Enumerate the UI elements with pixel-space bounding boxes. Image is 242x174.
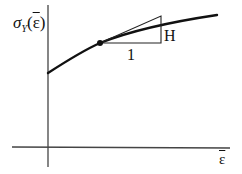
- subscript-y: Y: [21, 23, 27, 34]
- rise-label: H: [164, 28, 176, 44]
- x-axis: [12, 147, 230, 148]
- tangent-point: [97, 40, 103, 46]
- x-axis-label: ε: [219, 152, 225, 167]
- y-axis-label: σY(ε): [13, 14, 45, 31]
- hardening-diagram: σY(ε) ε H 1: [0, 0, 242, 174]
- yield-stress-curve: [48, 15, 217, 73]
- slope-triangle: [100, 16, 161, 43]
- run-label: 1: [127, 47, 135, 63]
- epsilon-bar: ε: [33, 13, 40, 32]
- paren-close: ): [40, 13, 46, 32]
